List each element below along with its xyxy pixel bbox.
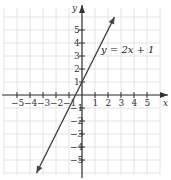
svg-text:1: 1 (93, 98, 99, 108)
x-axis-label: x (163, 98, 168, 108)
svg-text:−3: −3 (37, 98, 51, 108)
svg-text:−4: −4 (24, 98, 38, 108)
svg-text:4: 4 (132, 98, 138, 108)
svg-text:3: 3 (74, 51, 80, 61)
svg-text:−5: −5 (11, 98, 25, 108)
svg-text:−5: −5 (70, 155, 84, 165)
svg-text:−2: −2 (50, 98, 63, 108)
svg-text:−1: −1 (70, 103, 83, 113)
svg-text:−3: −3 (70, 129, 84, 139)
y-axis-arrow-icon (79, 5, 85, 13)
svg-text:5: 5 (74, 25, 80, 35)
svg-text:5: 5 (145, 98, 151, 108)
coordinate-plane: −5−4−3−2−11234554321−1−2−3−4−5 x y y = 2… (0, 0, 171, 180)
y-axis-label: y (71, 3, 78, 13)
svg-text:2: 2 (74, 64, 80, 74)
svg-text:2: 2 (106, 98, 112, 108)
svg-text:1: 1 (74, 77, 80, 87)
svg-text:4: 4 (74, 38, 80, 48)
svg-text:−4: −4 (70, 142, 84, 152)
equation-label: y = 2x + 1 (100, 44, 155, 55)
svg-text:3: 3 (119, 98, 125, 108)
svg-text:−2: −2 (70, 116, 83, 126)
